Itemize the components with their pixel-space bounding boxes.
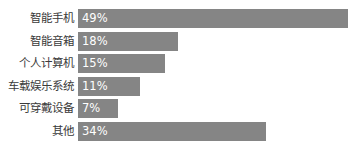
- bar-track: 49%: [78, 9, 348, 28]
- bar-track: 7%: [78, 99, 118, 118]
- bar-value-label: 34%: [82, 122, 108, 141]
- bar-value-label: 11%: [82, 77, 108, 96]
- table-row: 车载娱乐系统 11%: [0, 77, 356, 96]
- bar-track: 11%: [78, 77, 140, 96]
- table-row: 个人计算机 15%: [0, 54, 356, 73]
- table-row: 智能音箱 18%: [0, 32, 356, 51]
- horizontal-bar-chart: 智能手机 49% 智能音箱 18% 个人计算机 15% 车载娱乐系统 11% 可…: [0, 0, 356, 160]
- bar-value-label: 7%: [82, 99, 100, 118]
- bar-category-label: 智能音箱: [0, 32, 74, 51]
- bar-track: 15%: [78, 54, 165, 73]
- bar-value-label: 18%: [82, 32, 108, 51]
- bar-track: 18%: [78, 32, 178, 51]
- bar-fill: [78, 9, 348, 28]
- bar-category-label: 车载娱乐系统: [0, 77, 74, 96]
- table-row: 智能手机 49%: [0, 9, 356, 28]
- bar-value-label: 49%: [82, 9, 108, 28]
- bar-track: 34%: [78, 122, 266, 141]
- bar-category-label: 个人计算机: [0, 54, 74, 73]
- bar-category-label: 可穿戴设备: [0, 99, 74, 118]
- bar-value-label: 15%: [82, 54, 108, 73]
- table-row: 可穿戴设备 7%: [0, 99, 356, 118]
- bar-category-label: 智能手机: [0, 9, 74, 28]
- table-row: 其他 34%: [0, 122, 356, 141]
- bar-category-label: 其他: [0, 122, 74, 141]
